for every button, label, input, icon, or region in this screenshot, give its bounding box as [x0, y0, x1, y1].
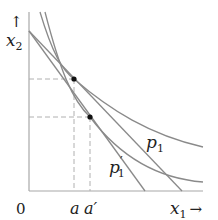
origin-label: 0: [16, 200, 26, 218]
indifference-curve-lower: [45, 12, 203, 182]
tick-label-a-prime: a′: [84, 199, 98, 218]
budget-line-p1: [29, 31, 182, 191]
y-axis-label: x2: [6, 30, 23, 53]
x-axis-label: x1→: [170, 198, 203, 220]
optimum-point-a: [71, 76, 76, 81]
dashed-guides: [29, 79, 90, 191]
optimum-point-a-prime: [87, 114, 92, 119]
budget-line-p1-prime: [29, 31, 145, 191]
diagram-canvas: ↑ x2 0 a a′ x1→ p1 p′1: [0, 0, 218, 220]
budget-label-p1: p1: [146, 132, 164, 155]
budget-label-p1-prime: p′1: [109, 155, 125, 180]
tick-label-a: a: [70, 199, 80, 218]
y-axis-arrow: ↑: [10, 13, 23, 31]
